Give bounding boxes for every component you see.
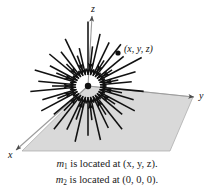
caption-line-m1: m1 is located at (x, y, z).: [0, 158, 214, 174]
caption-m1-text: is located at (x, y, z).: [68, 158, 158, 169]
z-axis-label: z: [91, 3, 95, 14]
field-arrow: [100, 82, 132, 85]
figure-caption: m1 is located at (x, y, z). m2 is locate…: [0, 158, 214, 189]
caption-m2-text: is located at (0, 0, 0).: [67, 174, 158, 185]
caption-m1-symbol: m: [56, 158, 64, 169]
y-axis-label: y: [199, 90, 203, 101]
point-coordinate-label: (x, y, z): [124, 43, 153, 54]
mass-m2-origin-point: [85, 83, 91, 89]
mass-m1-point: [115, 50, 120, 55]
gravitational-field-figure: z y x (x, y, z) m1 is located at (x, y, …: [0, 0, 214, 190]
caption-line-m2: m2 is located at (0, 0, 0).: [0, 174, 214, 190]
field-arrow: [65, 39, 83, 76]
field-arrow: [38, 81, 76, 85]
